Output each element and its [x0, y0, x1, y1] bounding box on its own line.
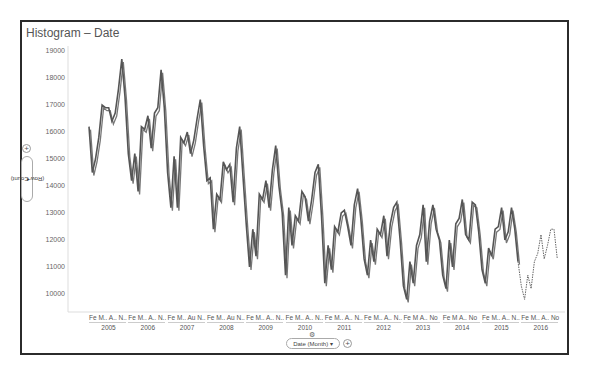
line-chart-plot: [0, 0, 589, 372]
series-line-shadow: [91, 62, 520, 302]
forecast-line[interactable]: [518, 229, 557, 299]
